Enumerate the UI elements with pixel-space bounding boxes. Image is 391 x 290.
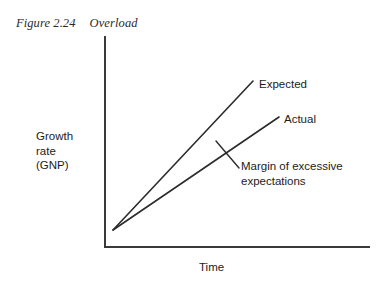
y-axis-label-line-2: rate bbox=[36, 144, 73, 159]
annotation-label-line-2: expectations bbox=[241, 174, 343, 189]
annotation-label-margin: Margin of excessive expectations bbox=[241, 159, 343, 188]
y-axis-label: Growth rate (GNP) bbox=[36, 129, 73, 173]
series-label-expected: Expected bbox=[259, 78, 307, 90]
series-label-actual: Actual bbox=[284, 113, 316, 125]
annotation-label-line-1: Margin of excessive bbox=[241, 159, 343, 174]
figure-container: Figure 2.24Overload Growth rate (GNP) Ti… bbox=[0, 0, 391, 290]
y-axis-label-line-1: Growth bbox=[36, 129, 73, 144]
y-axis-label-line-3: (GNP) bbox=[36, 158, 73, 173]
annotation-leader-line bbox=[216, 141, 239, 168]
series-line-expected bbox=[113, 81, 253, 230]
x-axis-label: Time bbox=[199, 261, 224, 273]
